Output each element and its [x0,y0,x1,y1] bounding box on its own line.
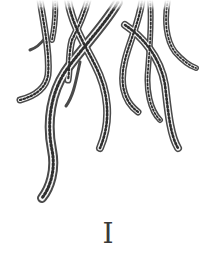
top-fade [0,0,216,10]
tentacles-illustration [0,0,216,205]
chapter-numeral: I [0,218,216,250]
